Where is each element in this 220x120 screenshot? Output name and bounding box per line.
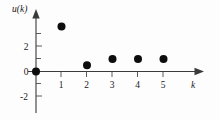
x-tick-label-5: 5 — [161, 80, 166, 90]
data-point-k3 — [109, 55, 117, 63]
y-tick-label-neg2: -2 — [20, 92, 28, 102]
chart-figure: 2 0 -2 u(k) 1 2 3 4 5 k — [0, 0, 220, 120]
x-tick-label-2: 2 — [84, 80, 89, 90]
x-tick-label-4: 4 — [135, 80, 140, 90]
data-point-k5 — [160, 55, 168, 63]
data-point-k2 — [83, 61, 91, 69]
data-point-k0 — [32, 68, 40, 76]
x-tick-label-3: 3 — [110, 80, 115, 90]
y-tick-label-0: 0 — [24, 67, 29, 77]
x-tick-label-1: 1 — [59, 80, 64, 90]
data-point-k1 — [58, 23, 66, 31]
discrete-signal-plot: 2 0 -2 u(k) 1 2 3 4 5 k — [0, 0, 220, 120]
y-axis-title: u(k) — [12, 4, 27, 15]
data-point-k4 — [134, 55, 142, 63]
y-tick-label-2: 2 — [24, 42, 29, 52]
